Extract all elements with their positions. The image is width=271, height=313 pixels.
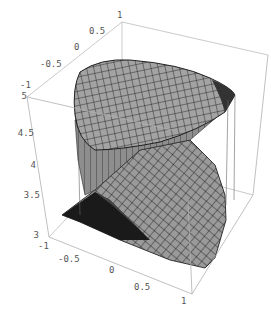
z-axis-ticks: 3 3.5 4 4.5 5: [18, 91, 40, 240]
bottom-tick-0: -1: [38, 241, 49, 251]
surface-upper-lobe: [74, 60, 235, 150]
surface-plot: -1 -0.5 0 0.5 1 3 3.5 4 4.5 5 -1 -0.5 0 …: [0, 0, 271, 313]
top-tick-2: 0: [74, 42, 79, 52]
z-tick-0: 3: [34, 230, 39, 240]
top-tick-4: 1: [117, 10, 122, 20]
bottom-tick-3: 0.5: [134, 282, 150, 292]
z-tick-4: 5: [22, 91, 27, 101]
z-tick-3: 4.5: [18, 128, 34, 138]
bottom-tick-4: 1: [181, 296, 186, 306]
top-tick-1: -0.5: [40, 59, 62, 69]
top-tick-0: -1: [20, 80, 31, 90]
z-tick-1: 3.5: [24, 190, 40, 200]
z-tick-2: 4: [31, 160, 36, 170]
bottom-tick-2: 0: [109, 265, 114, 275]
top-tick-3: 0.5: [89, 26, 105, 36]
bottom-tick-1: -0.5: [58, 254, 80, 264]
